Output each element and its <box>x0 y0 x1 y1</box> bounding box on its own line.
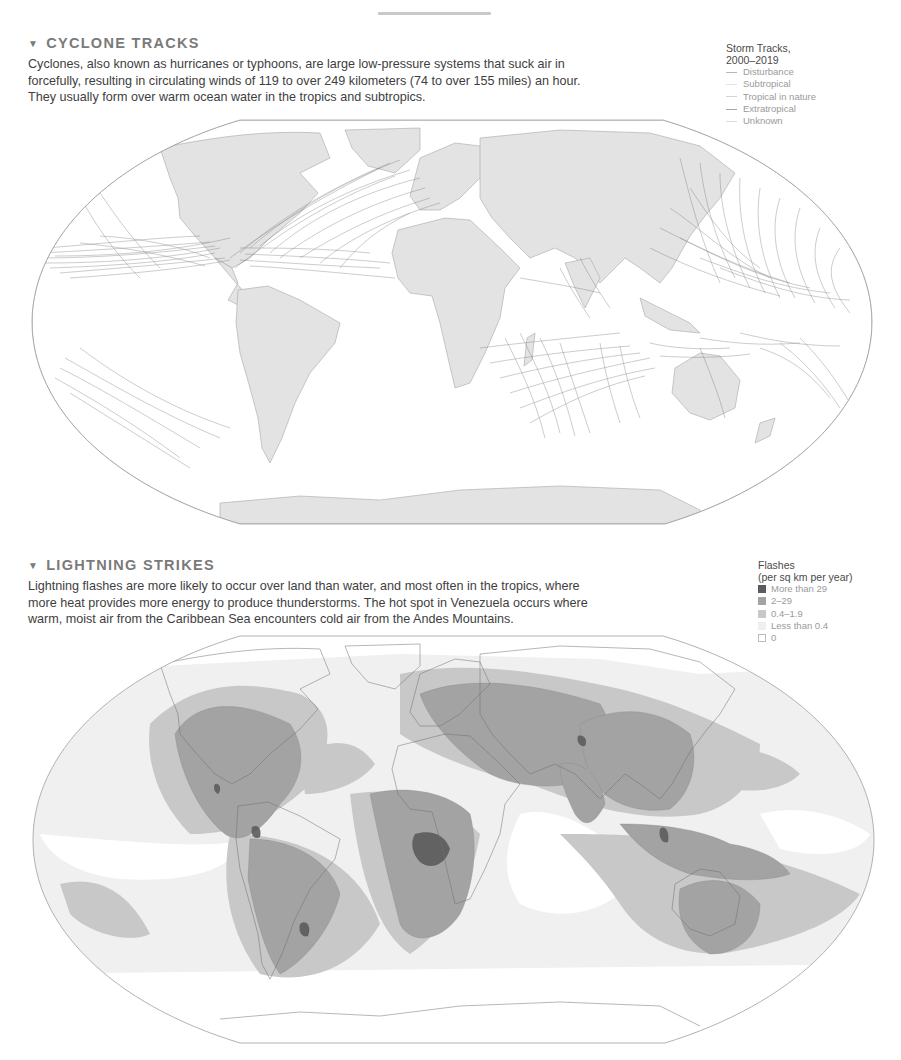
legend-item-disturbance: Disturbance <box>726 66 816 78</box>
legend-item-tropical: Tropical in nature <box>726 91 816 103</box>
cyclone-section-heading: ▼CYCLONE TRACKS <box>28 35 200 51</box>
legend-title: Storm Tracks, <box>726 43 816 55</box>
track-line-icon <box>726 109 737 110</box>
track-line-icon <box>726 72 737 73</box>
swatch-icon <box>758 585 766 593</box>
cyclone-tracks-map <box>0 118 901 530</box>
legend-subtitle: 2000–2019 <box>726 55 816 67</box>
legend-item-subtropical: Subtropical <box>726 78 816 90</box>
legend-item-0-4-1-9: 0.4–1.9 <box>758 608 853 620</box>
triangle-down-icon: ▼ <box>28 560 39 571</box>
track-line-icon <box>726 84 737 85</box>
lightning-heading-text: LIGHTNING STRIKES <box>46 557 215 573</box>
lightning-description: Lightning flashes are more likely to occ… <box>28 578 593 628</box>
lightning-strikes-map <box>0 634 901 1046</box>
lightning-section-heading: ▼LIGHTNING STRIKES <box>28 557 215 573</box>
swatch-icon <box>758 610 766 618</box>
cyclone-description: Cyclones, also known as hurricanes or ty… <box>28 56 588 106</box>
page-top-separator <box>378 12 491 15</box>
legend-item-more-than-29: More than 29 <box>758 583 853 595</box>
legend-subtitle: (per sq km per year) <box>758 572 853 584</box>
storm-tracks-legend: Storm Tracks, 2000–2019 Disturbance Subt… <box>726 43 816 127</box>
flashes-legend: Flashes (per sq km per year) More than 2… <box>758 560 853 644</box>
swatch-icon <box>758 622 766 630</box>
legend-item-2-29: 2–29 <box>758 595 853 607</box>
legend-item-less-than-0-4: Less than 0.4 <box>758 620 853 632</box>
legend-title: Flashes <box>758 560 853 572</box>
triangle-down-icon: ▼ <box>28 38 39 49</box>
track-line-icon <box>726 96 737 97</box>
swatch-icon <box>758 597 766 605</box>
legend-item-extratropical: Extratropical <box>726 103 816 115</box>
cyclone-heading-text: CYCLONE TRACKS <box>46 35 200 51</box>
